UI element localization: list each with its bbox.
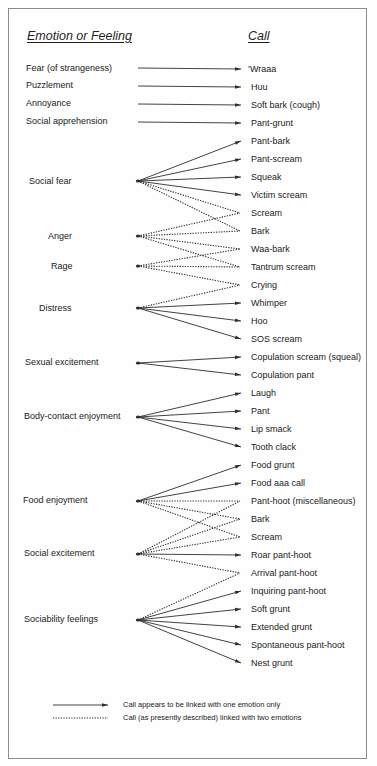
node-dot-icon: [136, 234, 140, 237]
node-dot-icon: [136, 361, 140, 364]
call-label: Tantrum scream: [251, 262, 316, 272]
solid-link-arrow: [138, 483, 241, 501]
call-label: Pant-hoot (miscellaneous): [251, 496, 356, 506]
call-label: Squeak: [251, 172, 282, 182]
node-dot-icon: [136, 415, 140, 418]
call-label: Bark: [251, 226, 270, 236]
node-dot-icon: [136, 618, 140, 621]
call-label: Copulation scream (squeal): [251, 352, 361, 362]
call-label: Waa-bark: [251, 244, 290, 254]
solid-link-arrow: [138, 554, 241, 555]
dotted-link-line: [138, 181, 240, 231]
call-label: Crying: [251, 280, 277, 290]
arrowhead-icon: [235, 301, 241, 305]
call-label: Nest grunt: [251, 658, 293, 668]
dotted-link-line: [138, 501, 240, 537]
dotted-link-line: [138, 554, 240, 573]
dotted-link-line: [138, 236, 240, 249]
call-label: Arrival pant-hoot: [251, 568, 317, 578]
call-label: Victim scream: [251, 190, 307, 200]
dotted-link-line: [138, 501, 240, 519]
call-label: Extended grunt: [251, 622, 312, 632]
solid-link-arrow: [138, 363, 241, 375]
node-dot-icon: [136, 264, 140, 267]
emotion-label: Body-contact enjoyment: [24, 411, 121, 421]
node-dot-icon: [136, 499, 140, 502]
call-label: Pant-scream: [251, 154, 302, 164]
call-label: Food grunt: [251, 460, 295, 470]
call-label: Inquiring pant-hoot: [251, 586, 326, 596]
call-label: Scream: [251, 208, 282, 218]
emotion-label: Sexual excitement: [25, 357, 99, 367]
node-dot-icon: [136, 179, 140, 182]
call-column-header: Call: [248, 29, 270, 43]
dotted-link-line: [138, 537, 240, 554]
call-label: Pant: [251, 406, 270, 416]
emotion-label: Distress: [39, 303, 72, 313]
call-label: Pant-bark: [251, 136, 290, 146]
call-label: Laugh: [251, 388, 276, 398]
arrowhead-icon: [235, 444, 241, 447]
call-label: *Wraaa: [251, 64, 276, 74]
call-label: Pant-grunt: [251, 118, 293, 128]
arrowhead-icon: [235, 121, 241, 125]
arrowhead-icon: [235, 85, 241, 89]
arrowhead-icon: [235, 141, 241, 145]
arrowhead-icon: [235, 175, 241, 179]
call-label: Roar pant-hoot: [251, 550, 311, 560]
solid-link-arrow: [138, 181, 241, 195]
emotion-label: Rage: [51, 261, 73, 271]
solid-link-arrow: [138, 417, 241, 429]
call-label: Lip smack: [251, 424, 292, 434]
solid-link-arrow: [138, 303, 241, 308]
arrowhead-icon: [235, 608, 241, 612]
dotted-link-line: [138, 236, 240, 267]
emotion-label: Annoyance: [26, 98, 71, 108]
arrowhead-icon: [235, 336, 241, 339]
emotion-label: Social excitement: [24, 548, 95, 558]
arrowhead-icon: [235, 427, 241, 431]
dotted-link-line: [138, 573, 240, 620]
call-label: Hoo: [251, 316, 268, 326]
call-label: SOS scream: [251, 334, 302, 344]
link-lines: [0, 0, 377, 766]
solid-link-arrow: [138, 609, 241, 620]
dotted-link-line: [138, 285, 240, 308]
emotion-label: Fear (of strangeness): [26, 63, 112, 73]
call-label: Spontaneous pant-hoot: [251, 640, 345, 650]
solid-link-arrow: [138, 591, 241, 620]
emotion-label: Puzzlement: [26, 80, 73, 90]
legend-dotted-label: Call (as presently described) linked wit…: [123, 713, 301, 722]
dotted-link-line: [138, 501, 240, 554]
arrowhead-icon: [235, 103, 241, 107]
solid-link-arrow: [138, 104, 241, 105]
dotted-link-line: [138, 519, 240, 554]
arrowhead-icon: [102, 703, 108, 707]
arrowhead-icon: [235, 158, 241, 162]
dotted-link-line: [138, 181, 240, 213]
emotion-label: Social apprehension: [26, 116, 108, 126]
emotion-column-header: Emotion or Feeling: [27, 29, 132, 43]
solid-link-arrow: [138, 122, 241, 123]
arrowhead-icon: [235, 642, 241, 645]
arrowhead-icon: [235, 67, 241, 71]
call-label: Soft grunt: [251, 604, 290, 614]
call-label: Soft bark (cough): [251, 100, 320, 110]
emotion-label: Anger: [48, 231, 72, 241]
dotted-link-line: [138, 231, 240, 236]
solid-link-arrow: [138, 393, 241, 417]
node-dot-icon: [136, 552, 140, 555]
footnote-marker: *: [248, 65, 250, 71]
arrowhead-icon: [235, 393, 241, 397]
solid-link-arrow: [138, 141, 241, 181]
node-dot-icon: [136, 306, 140, 309]
solid-link-arrow: [138, 86, 241, 87]
call-label: Copulation pant: [251, 370, 314, 380]
arrowhead-icon: [235, 192, 241, 196]
legend-solid-label: Call appears to be linked with one emoti…: [123, 700, 280, 709]
arrowhead-icon: [235, 465, 241, 469]
dotted-link-line: [138, 249, 240, 266]
arrowhead-icon: [235, 318, 241, 322]
solid-link-arrow: [138, 308, 241, 339]
arrowhead-icon: [235, 659, 241, 663]
